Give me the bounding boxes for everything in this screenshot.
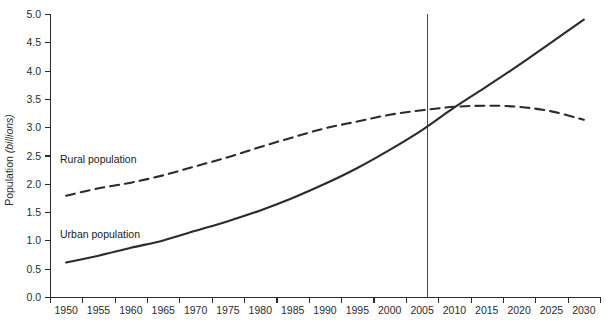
chart-canvas: 0.00.51.01.52.02.53.03.54.04.55.0 195019…	[0, 0, 606, 326]
x-tick-label: 1970	[184, 304, 208, 316]
x-tick-label: 2010	[443, 304, 467, 316]
x-tick-label: 1980	[249, 304, 273, 316]
x-tick-label: 1960	[119, 304, 143, 316]
x-tick-label: 1990	[313, 304, 337, 316]
y-tick-label: 3.0	[26, 121, 41, 133]
population-line-chart: 0.00.51.01.52.02.53.03.54.04.55.0 195019…	[0, 0, 606, 326]
y-tick-label: 0.0	[26, 291, 41, 303]
y-tick-label: 1.5	[26, 206, 41, 218]
y-tick-label: 2.5	[26, 150, 41, 162]
y-tick-labels: 0.00.51.01.52.02.53.03.54.04.55.0	[26, 8, 41, 303]
x-tick-label: 1955	[87, 304, 111, 316]
y-axis-title: Population (billions)	[3, 114, 15, 206]
y-tick-marks	[45, 15, 50, 298]
series-group	[66, 20, 584, 263]
x-tick-label: 1995	[346, 304, 370, 316]
y-tick-label: 1.0	[26, 234, 41, 246]
y-tick-label: 0.5	[26, 263, 41, 275]
x-tick-label: 2020	[507, 304, 531, 316]
x-tick-labels: 1950195519601965197019751980198519901995…	[54, 304, 595, 316]
x-tick-label: 1985	[281, 304, 305, 316]
urban-population-label: Urban population	[60, 228, 140, 240]
x-axis-group: 1950195519601965197019751980198519901995…	[50, 297, 601, 316]
y-tick-label: 4.5	[26, 36, 41, 48]
x-tick-label: 1950	[54, 304, 78, 316]
y-axis-title-group: Population (billions)	[3, 114, 15, 206]
y-tick-label: 5.0	[26, 8, 41, 20]
x-tick-label: 2015	[475, 304, 499, 316]
x-tick-label: 2000	[378, 304, 402, 316]
x-tick-label: 1975	[216, 304, 240, 316]
x-tick-label: 2005	[410, 304, 434, 316]
y-axis-title-main: Population	[3, 156, 15, 206]
x-tick-label: 2030	[572, 304, 596, 316]
y-tick-label: 2.0	[26, 178, 41, 190]
rural-population-label: Rural population	[60, 153, 137, 165]
y-axis-group: 0.00.51.01.52.02.53.03.54.04.55.0	[26, 8, 50, 303]
y-tick-label: 3.5	[26, 93, 41, 105]
rural-population-line	[66, 106, 584, 196]
x-tick-label: 2025	[540, 304, 564, 316]
y-axis-title-unit: (billions)	[3, 114, 15, 153]
series-labels-group: Rural population Urban population	[60, 153, 140, 240]
y-tick-label: 4.0	[26, 65, 41, 77]
x-tick-label: 1965	[152, 304, 176, 316]
urban-population-line	[66, 20, 584, 263]
